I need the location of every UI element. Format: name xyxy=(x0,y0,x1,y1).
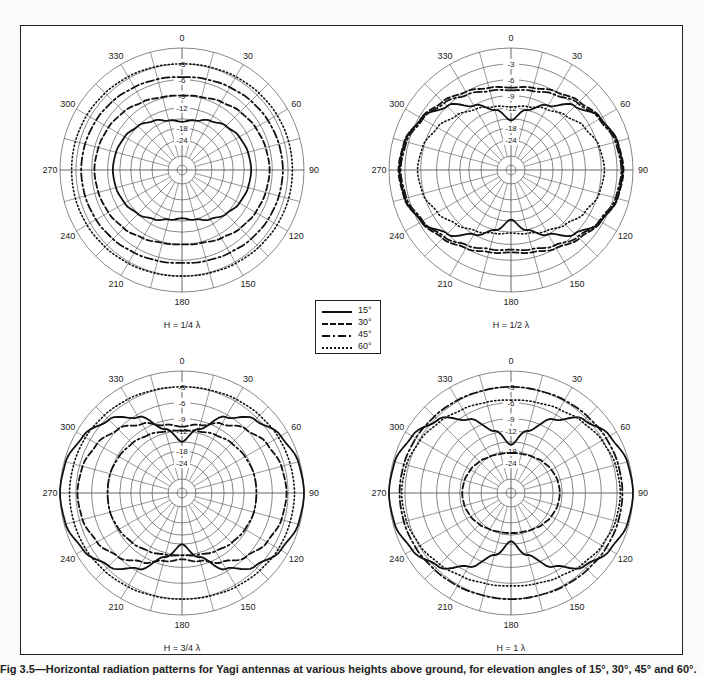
angle-tick-label: 60 xyxy=(620,99,630,109)
legend-item-30: 30° xyxy=(322,317,378,329)
legend-label: 60° xyxy=(358,341,372,351)
angle-tick-label: 30 xyxy=(572,374,582,384)
grid-spoke xyxy=(425,407,501,483)
angle-tick-label: 270 xyxy=(42,165,57,175)
grid-spoke xyxy=(150,184,178,288)
grid-spoke xyxy=(76,177,170,231)
grid-spoke xyxy=(518,64,572,158)
grid-spoke xyxy=(523,177,617,231)
grid-spoke xyxy=(405,109,499,163)
angle-tick-label: 180 xyxy=(503,620,518,630)
legend-label: 45° xyxy=(358,329,372,339)
ring-db-label: -6 xyxy=(507,76,515,85)
legend-item-60: 60° xyxy=(322,341,378,353)
grid-spoke xyxy=(525,174,629,202)
grid-spoke xyxy=(425,503,501,579)
grid-spoke xyxy=(186,507,214,611)
grid-spoke xyxy=(525,497,629,525)
legend-label: 30° xyxy=(358,317,372,327)
angle-tick-label: 300 xyxy=(389,422,404,432)
angle-tick-label: 30 xyxy=(243,374,253,384)
grid-spoke xyxy=(76,500,170,554)
figure-caption: Fig 3.5—Horizontal radiation patterns fo… xyxy=(0,663,697,675)
angle-tick-label: 300 xyxy=(60,422,75,432)
grid-spoke xyxy=(194,177,288,231)
angle-tick-label: 300 xyxy=(389,99,404,109)
angle-tick-label: 330 xyxy=(437,51,452,61)
grid-spoke xyxy=(525,138,629,166)
grid-spoke xyxy=(150,507,178,611)
grid-spoke xyxy=(121,505,175,599)
ring-db-label: -24 xyxy=(176,459,188,468)
ring-db-label: -24 xyxy=(505,459,517,468)
angle-tick-label: 270 xyxy=(371,488,386,498)
height-label: H = 3/4 λ xyxy=(164,643,201,653)
angle-tick-label: 240 xyxy=(389,231,404,241)
ring-db-label: -3 xyxy=(507,60,515,69)
grid-spoke xyxy=(189,387,243,481)
polar-chart-1: 0306090120150180210240270300330-3-6-9-12… xyxy=(42,33,319,330)
angle-tick-label: 210 xyxy=(437,279,452,289)
angle-tick-label: 90 xyxy=(309,165,319,175)
angle-tick-label: 240 xyxy=(389,554,404,564)
grid-spoke xyxy=(192,84,268,160)
angle-tick-label: 60 xyxy=(291,99,301,109)
angle-tick-label: 90 xyxy=(638,165,648,175)
angle-tick-label: 210 xyxy=(437,602,452,612)
angle-tick-label: 330 xyxy=(108,374,123,384)
angle-tick-label: 150 xyxy=(240,602,255,612)
ring-db-label: -9 xyxy=(178,415,186,424)
polar-chart-2: 0306090120150180210240270300330-3-6-9-12… xyxy=(371,33,648,330)
angle-tick-label: 180 xyxy=(174,620,189,630)
angle-tick-label: 30 xyxy=(572,51,582,61)
grid-spoke xyxy=(186,184,214,288)
dotted-line-swatch xyxy=(322,347,352,349)
grid-spoke xyxy=(405,177,499,231)
ring-db-label: -6 xyxy=(178,399,186,408)
grid-spoke xyxy=(518,182,572,276)
grid-spoke xyxy=(96,84,172,160)
grid-spoke xyxy=(479,184,507,288)
angle-tick-label: 90 xyxy=(309,488,319,498)
dashed-line-swatch xyxy=(322,323,352,325)
grid-spoke xyxy=(192,180,268,256)
angle-tick-label: 120 xyxy=(618,554,633,564)
angle-tick-label: 90 xyxy=(638,488,648,498)
angle-tick-label: 330 xyxy=(437,374,452,384)
grid-spoke xyxy=(521,180,597,256)
ring-db-label: -24 xyxy=(505,136,517,145)
height-label: H = 1 λ xyxy=(497,643,526,653)
angle-tick-label: 270 xyxy=(42,488,57,498)
angle-tick-label: 210 xyxy=(108,602,123,612)
ring-db-label: -12 xyxy=(505,427,517,436)
angle-tick-label: 240 xyxy=(60,231,75,241)
angle-tick-label: 0 xyxy=(508,33,513,43)
grid-spoke xyxy=(515,507,543,611)
grid-spoke xyxy=(194,432,288,486)
grid-spoke xyxy=(393,497,497,525)
height-label: H = 1/4 λ xyxy=(164,320,201,330)
ring-db-label: -12 xyxy=(176,104,188,113)
grid-spoke xyxy=(194,500,288,554)
angle-tick-label: 210 xyxy=(108,279,123,289)
polar-chart-4: 0306090120150180210240270300330-3-6-9-12… xyxy=(371,356,648,653)
polar-chart-3: 0306090120150180210240270300330-3-6-9-12… xyxy=(42,356,319,653)
angle-tick-label: 120 xyxy=(618,231,633,241)
grid-spoke xyxy=(521,503,597,579)
angle-tick-label: 60 xyxy=(291,422,301,432)
angle-tick-label: 150 xyxy=(569,602,584,612)
grid-spoke xyxy=(194,109,288,163)
ring-db-label: -18 xyxy=(505,447,517,456)
legend: 15° 30° 45° 60° xyxy=(315,300,381,354)
angle-tick-label: 180 xyxy=(174,297,189,307)
ring-db-label: -12 xyxy=(505,104,517,113)
angle-tick-label: 0 xyxy=(508,356,513,366)
grid-spoke xyxy=(525,461,629,489)
grid-spoke xyxy=(393,138,497,166)
dashdot-line-swatch xyxy=(322,329,352,341)
ring-db-label: -24 xyxy=(176,136,188,145)
angle-tick-label: 300 xyxy=(60,99,75,109)
grid-spoke xyxy=(523,109,617,163)
angle-tick-label: 330 xyxy=(108,51,123,61)
angle-tick-label: 150 xyxy=(240,279,255,289)
